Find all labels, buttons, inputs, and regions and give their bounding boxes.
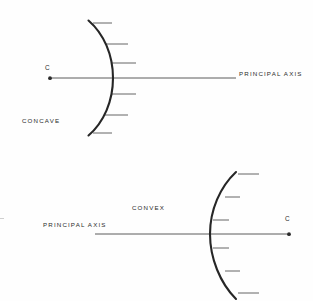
optics-diagram: PRINCIPAL AXIS CONCAVE C PRINCIPAL AXIS … (0, 0, 313, 301)
convex-center-of-curvature-point (287, 232, 291, 236)
convex-mirror-arc (210, 172, 236, 299)
page-edge-artifact (0, 218, 4, 219)
mirror-diagram-canvas (0, 0, 313, 301)
concave-center-of-curvature-point (48, 76, 52, 80)
concave-center-label: C (45, 65, 50, 71)
concave-principal-axis-label: PRINCIPAL AXIS (239, 71, 303, 77)
convex-mirror-label: CONVEX (132, 205, 165, 211)
convex-figure (95, 172, 291, 299)
convex-center-label: C (285, 216, 290, 222)
concave-figure (48, 21, 236, 136)
concave-mirror-label: CONCAVE (22, 118, 60, 124)
convex-principal-axis-label: PRINCIPAL AXIS (43, 222, 107, 228)
